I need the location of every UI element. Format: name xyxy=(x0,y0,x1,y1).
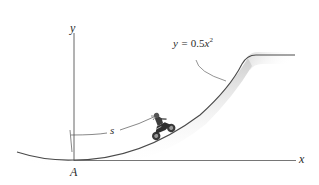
arc-length-label: s xyxy=(110,125,114,136)
x-axis-label: x xyxy=(299,153,304,165)
equation-coef: 0.5 xyxy=(191,37,205,49)
equation-exp: 2 xyxy=(209,36,213,44)
equation-leader-line xyxy=(196,60,226,81)
diagram-svg xyxy=(0,0,319,185)
track-shadow xyxy=(17,52,295,168)
y-axis-label: y xyxy=(70,22,75,34)
origin-label-A: A xyxy=(70,166,77,178)
curve-equation-label: y = 0.5x2 xyxy=(173,37,213,49)
equation-prefix: y = xyxy=(173,37,191,49)
diagram-canvas: y x A s y = 0.5x2 xyxy=(0,0,319,185)
